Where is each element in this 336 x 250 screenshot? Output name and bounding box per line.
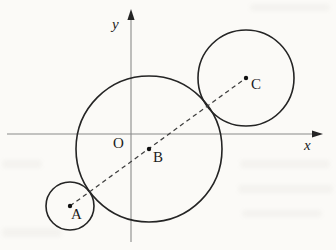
x-axis-label: x [303,137,311,153]
y-axis-label: y [110,16,119,32]
point-dot-B [147,147,151,151]
point-label-C: C [251,76,261,92]
center-line-dashed [70,78,246,206]
x-axis-arrow-icon [312,130,323,137]
diagram-svg: ABCxyO [0,0,336,250]
point-label-B: B [153,149,163,165]
point-label-A: A [71,206,82,222]
origin-label: O [113,135,124,151]
point-dot-C [244,76,248,80]
y-axis-arrow-icon [127,9,134,20]
geometry-figure: ABCxyO [0,0,336,250]
